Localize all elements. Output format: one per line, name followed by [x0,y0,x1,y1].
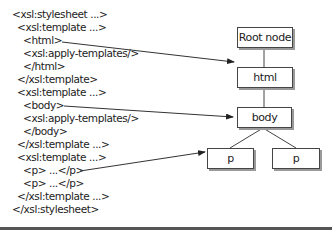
tree-node-body: body [237,107,292,128]
arrow-body-to-node [64,106,233,117]
edge-body-p2 [263,128,296,148]
tree-node-html: html [237,67,293,88]
arrow-html-to-node [62,42,234,62]
edge-body-p1 [230,128,263,148]
tree-node-root: Root node [237,27,293,48]
tree-node-p-1: p [207,148,254,169]
bottom-rule [0,227,332,230]
arrow-p-to-node [80,152,205,171]
tree-node-p-2: p [272,148,320,169]
